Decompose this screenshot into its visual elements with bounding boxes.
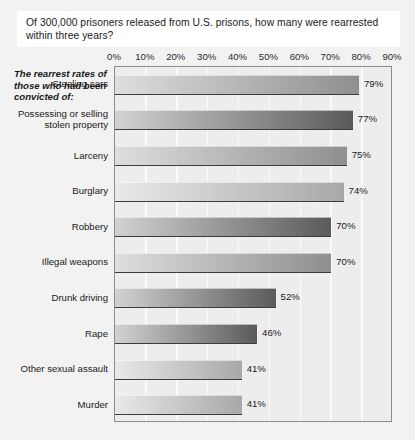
x-tick-70: 70% xyxy=(321,51,340,62)
category-label-larceny: Larceny xyxy=(8,150,108,161)
x-tick-0: 0% xyxy=(107,51,121,62)
x-tick-40: 40% xyxy=(228,51,247,62)
value-label-robbery: 70% xyxy=(336,220,355,231)
bar-robbery xyxy=(115,217,331,237)
value-label-murder: 41% xyxy=(247,398,266,409)
x-tick-60: 60% xyxy=(290,51,309,62)
value-label-stealing-cars: 79% xyxy=(364,78,383,89)
value-label-burglary: 74% xyxy=(349,185,368,196)
value-label-rape: 46% xyxy=(262,327,281,338)
bar-illegal-weapons xyxy=(115,253,331,273)
title-card: Of 300,000 prisoners released from U.S. … xyxy=(17,11,400,47)
bar-burglary xyxy=(115,182,344,202)
x-tick-10: 10% xyxy=(135,51,154,62)
value-label-possessing-or-selling-stolen-property: 77% xyxy=(358,113,377,124)
bar-row xyxy=(115,146,391,166)
value-label-larceny: 75% xyxy=(352,149,371,160)
value-label-illegal-weapons: 70% xyxy=(336,256,355,267)
bar-possessing-or-selling-stolen-property xyxy=(115,110,353,130)
category-label-other-sexual-assault: Other sexual assault xyxy=(8,363,108,374)
x-tick-20: 20% xyxy=(166,51,185,62)
category-label-robbery: Robbery xyxy=(8,221,108,232)
x-tick-50: 50% xyxy=(259,51,278,62)
bar-murder xyxy=(115,395,242,415)
category-label-murder: Murder xyxy=(8,399,108,410)
value-label-other-sexual-assault: 41% xyxy=(247,363,266,374)
bar-other-sexual-assault xyxy=(115,360,242,380)
category-label-burglary: Burglary xyxy=(8,185,108,196)
x-tick-80: 80% xyxy=(352,51,371,62)
bar-drunk-driving xyxy=(115,288,276,308)
x-tick-30: 30% xyxy=(197,51,216,62)
category-label-drunk-driving: Drunk driving xyxy=(8,292,108,303)
category-label-stealing-cars: Stealing cars xyxy=(8,78,108,89)
category-label-rape: Rape xyxy=(8,328,108,339)
bar-rape xyxy=(115,324,257,344)
bar-row xyxy=(115,324,391,344)
category-label-possessing-or-selling-stolen-property: Possessing or selling stolen property xyxy=(8,108,108,130)
bar-larceny xyxy=(115,146,347,166)
x-axis-tick-labels: 0%10%20%30%40%50%60%70%80%90% xyxy=(114,51,392,64)
bar-row xyxy=(115,110,391,130)
bar-stealing-cars xyxy=(115,75,359,95)
chart-page: Of 300,000 prisoners released from U.S. … xyxy=(0,0,415,440)
value-label-drunk-driving: 52% xyxy=(281,291,300,302)
bar-row xyxy=(115,288,391,308)
page-title: Of 300,000 prisoners released from U.S. … xyxy=(17,16,400,43)
bar-row xyxy=(115,75,391,95)
x-tick-90: 90% xyxy=(382,51,401,62)
category-label-illegal-weapons: Illegal weapons xyxy=(8,256,108,267)
